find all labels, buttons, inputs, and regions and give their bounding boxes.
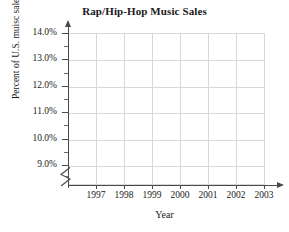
axis-break-icon — [59, 166, 79, 188]
y-axis-tick — [62, 59, 68, 60]
horizontal-gridline — [68, 166, 264, 167]
vertical-gridline — [96, 34, 97, 184]
y-axis-tick-label: 13.0% — [17, 53, 57, 63]
vertical-gridline — [124, 34, 125, 184]
x-axis-tick — [264, 185, 265, 189]
vertical-gridline — [264, 34, 265, 184]
y-axis-tick — [62, 165, 68, 166]
x-axis-line — [68, 185, 279, 186]
y-axis-minor-tick — [64, 176, 68, 177]
chart-container: Rap/Hip-Hop Music Sales Percent of U.S. … — [0, 0, 289, 232]
y-axis-tick-label: 10.0% — [17, 133, 57, 143]
x-axis-tick — [124, 185, 125, 189]
vertical-gridline — [208, 34, 209, 184]
vertical-gridline — [180, 34, 181, 184]
y-axis-minor-tick — [64, 152, 68, 153]
x-axis-title: Year — [62, 209, 267, 220]
y-axis-minor-tick — [64, 125, 68, 126]
horizontal-gridline — [68, 87, 264, 88]
y-axis-tick — [62, 112, 68, 113]
x-axis-arrow-icon — [277, 182, 284, 188]
y-axis-tick-label: 14.0% — [17, 27, 57, 37]
y-axis-tick — [62, 33, 68, 34]
x-axis-tick — [236, 185, 237, 189]
y-axis-tick — [62, 86, 68, 87]
plot-area — [68, 33, 265, 185]
y-axis-tick-label: 11.0% — [17, 106, 57, 116]
x-axis-tick — [180, 185, 181, 189]
x-axis-tick — [152, 185, 153, 189]
y-axis-tick-label: 9.0% — [17, 159, 57, 169]
horizontal-gridline — [68, 113, 264, 114]
horizontal-gridline — [68, 60, 264, 61]
vertical-gridline — [152, 34, 153, 184]
x-axis-tick — [208, 185, 209, 189]
y-axis-arrow-icon — [65, 20, 71, 27]
vertical-gridline — [236, 34, 237, 184]
y-axis-minor-tick — [64, 46, 68, 47]
chart-title: Rap/Hip-Hop Music Sales — [0, 5, 289, 17]
x-axis-tick — [96, 185, 97, 189]
y-axis-minor-tick — [64, 73, 68, 74]
y-axis-tick-label: 12.0% — [17, 80, 57, 90]
x-axis-tick-label: 2003 — [244, 190, 284, 200]
y-axis-tick — [62, 139, 68, 140]
y-axis-line — [68, 26, 69, 188]
y-axis-minor-tick — [64, 99, 68, 100]
horizontal-gridline — [68, 140, 264, 141]
